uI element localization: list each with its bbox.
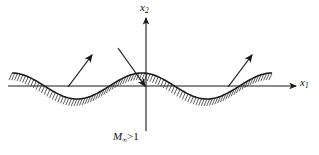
hatch-tick (207, 99, 210, 106)
hatch-tick (153, 76, 156, 83)
hatch-tick (193, 97, 196, 104)
hatch-tick (169, 84, 172, 91)
hatch-tick (77, 99, 80, 106)
hatch-tick (182, 93, 185, 100)
hatch-tick (196, 98, 199, 105)
hatch-tick (180, 91, 183, 98)
hatch-tick (71, 99, 74, 106)
hatch-tick (25, 77, 28, 84)
hatch-tick (66, 98, 69, 105)
hatch-tick (58, 95, 61, 102)
mach-symbol: M (113, 130, 122, 142)
hatch-tick (12, 73, 15, 80)
hatch-tick (142, 73, 145, 80)
hatch-tick (9, 73, 12, 80)
hatch-tick (155, 77, 158, 84)
hatch-tick (50, 91, 53, 98)
mach-relation: >1 (127, 130, 139, 142)
axis-x1-label: x1 (300, 77, 309, 90)
hatch-tick (172, 86, 175, 93)
hatch-tick (42, 86, 45, 93)
hatch-tick (47, 89, 50, 96)
hatch-tick (33, 81, 36, 88)
hatch-tick (174, 88, 177, 95)
hatch-tick (14, 73, 17, 80)
figure-canvas (0, 0, 319, 155)
wavy-wall-supersonic-flow-figure: x2 x1 M∞>1 (0, 0, 319, 155)
hatch-tick (177, 89, 180, 96)
axis-x2-label-sub: 2 (145, 6, 149, 15)
axis-x2-label: x2 (140, 2, 149, 15)
hatch-tick (39, 84, 42, 91)
hatch-tick (20, 75, 23, 82)
hatch-tick (190, 96, 193, 103)
hatch-tick (69, 99, 72, 106)
mach-wave-right (228, 55, 252, 87)
axis-x1-label-sub: 1 (305, 81, 309, 90)
hatch-tick (60, 96, 63, 103)
hatch-tick (23, 76, 26, 83)
hatch-tick (188, 95, 191, 102)
hatch-tick (55, 94, 58, 101)
hatch-tick (74, 99, 77, 106)
hatch-tick (52, 93, 55, 100)
hatch-tick (147, 74, 150, 81)
hatch-tick (150, 75, 153, 82)
hatch-tick (28, 78, 31, 85)
hatch-tick (185, 94, 188, 101)
hatch-tick (63, 97, 66, 104)
hatch-tick (17, 74, 20, 81)
hatch-tick (204, 99, 207, 106)
hatch-tick (163, 81, 166, 88)
mach-number-label: M∞>1 (113, 131, 139, 144)
hatch-tick (199, 99, 202, 106)
hatch-tick (269, 73, 272, 80)
hatch-tick (201, 99, 204, 106)
mach-wave-left (68, 55, 92, 87)
hatch-tick (158, 78, 161, 85)
hatch-tick (44, 88, 47, 95)
